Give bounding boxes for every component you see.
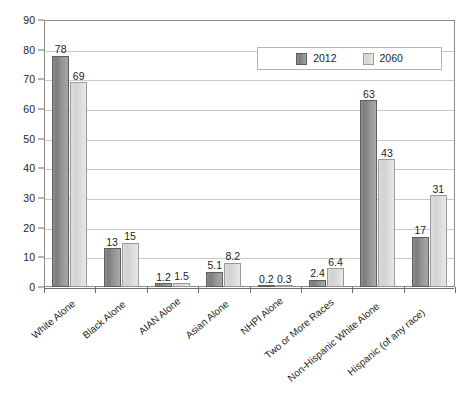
bar-2060-asian-alone[interactable]: 8.2 <box>224 263 241 287</box>
x-category-label: AIAN Alone <box>137 297 183 338</box>
y-tick-label: 80 <box>23 44 35 55</box>
bar-2012-non-hispanic-white-alone[interactable]: 63 <box>360 100 377 287</box>
x-tick-mark <box>198 287 199 293</box>
bar-2012-black-alone[interactable]: 13 <box>104 248 121 287</box>
bar-value-label: 15 <box>124 231 136 242</box>
bar-group: 5.18.2 <box>198 20 249 287</box>
bar-value-label: 8.2 <box>226 251 241 262</box>
bar-2060-hispanic-of-any-race[interactable]: 31 <box>430 195 447 287</box>
legend-item-2012[interactable]: 2012 <box>296 53 336 65</box>
y-tick-label: 10 <box>23 252 35 263</box>
bar-2060-nhpi-alone[interactable]: 0.3 <box>276 285 293 287</box>
bar-value-label: 78 <box>55 44 67 55</box>
bar-value-label: 6.4 <box>328 257 343 268</box>
bar-group: 1.21.5 <box>147 20 198 287</box>
bar-value-label: 17 <box>414 225 426 236</box>
bar-group: 1315 <box>95 20 146 287</box>
bar-value-label: 31 <box>432 184 444 195</box>
bar-value-label: 1.5 <box>174 271 189 282</box>
bar-value-label: 0.2 <box>259 274 274 285</box>
legend-swatch-icon-2060 <box>363 53 374 65</box>
bar-value-label: 0.3 <box>277 274 292 285</box>
x-category-label: Non-Hispanic White Alone <box>286 302 381 384</box>
y-tick-label: 60 <box>23 104 35 115</box>
bar-2060-white-alone[interactable]: 69 <box>70 82 87 287</box>
x-category-label: NHPI Alone <box>239 296 285 337</box>
bar-2012-asian-alone[interactable]: 5.1 <box>206 272 223 287</box>
x-tick-mark <box>147 287 148 293</box>
y-tick-label: 40 <box>23 163 35 174</box>
bar-value-label: 69 <box>73 71 85 82</box>
y-tick-label: 20 <box>23 222 35 233</box>
x-tick-mark <box>301 287 302 293</box>
bar-2012-aian-alone[interactable]: 1.2 <box>155 283 172 287</box>
x-tick-mark <box>44 287 45 293</box>
y-tick-label: 0 <box>29 282 35 293</box>
legend-label-2060: 2060 <box>380 53 403 64</box>
y-tick-label: 90 <box>23 15 35 26</box>
x-tick-mark <box>250 287 251 293</box>
bar-value-label: 2.4 <box>310 268 325 279</box>
bar-value-label: 43 <box>381 148 393 159</box>
legend-item-2060[interactable]: 2060 <box>363 53 403 65</box>
bar-chart: 0102030405060708090 786913151.21.55.18.2… <box>0 0 471 395</box>
bar-2060-aian-alone[interactable]: 1.5 <box>173 283 190 287</box>
legend: 2012 2060 <box>257 47 442 70</box>
legend-label-2012: 2012 <box>313 53 336 64</box>
x-tick-mark <box>95 287 96 293</box>
y-tick-label: 70 <box>23 74 35 85</box>
bar-2012-hispanic-of-any-race[interactable]: 17 <box>412 237 429 287</box>
bar-value-label: 63 <box>363 89 375 100</box>
bar-value-label: 5.1 <box>208 260 223 271</box>
y-tick-label: 30 <box>23 193 35 204</box>
bar-2012-white-alone[interactable]: 78 <box>52 56 69 287</box>
x-category-label: Asian Alone <box>184 299 231 341</box>
bar-2060-non-hispanic-white-alone[interactable]: 43 <box>378 159 395 287</box>
x-category-label: Black Alone <box>81 299 127 340</box>
bar-value-label: 1.2 <box>156 272 171 283</box>
x-tick-mark <box>352 287 353 293</box>
x-tick-mark <box>404 287 405 293</box>
bar-2012-two-or-more-races[interactable]: 2.4 <box>309 280 326 287</box>
bar-2060-two-or-more-races[interactable]: 6.4 <box>327 268 344 287</box>
legend-swatch-icon-2012 <box>296 53 307 65</box>
bar-group: 7869 <box>44 20 95 287</box>
bar-2060-black-alone[interactable]: 15 <box>122 243 139 288</box>
y-tick-label: 50 <box>23 133 35 144</box>
bar-2012-nhpi-alone[interactable]: 0.2 <box>258 285 275 287</box>
x-tick-mark <box>455 287 456 293</box>
bar-value-label: 13 <box>106 237 118 248</box>
